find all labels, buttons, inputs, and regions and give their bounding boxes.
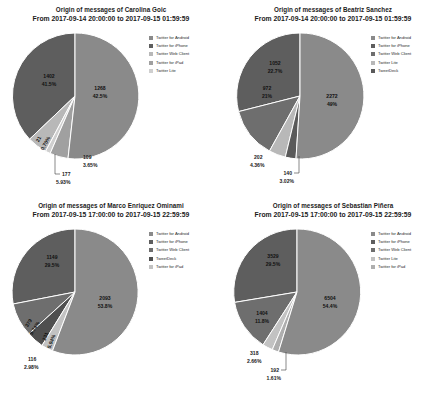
slice-label-value: 202 (254, 154, 263, 160)
legend-item[interactable]: Twitter for Android (149, 230, 219, 238)
chart-panel-marco-enriquez-ominami: Origin of messages of Marco Enriquez Omi… (0, 196, 222, 393)
chart-titles: Origin of messages of Carolina Goic From… (0, 0, 222, 23)
slice-label-value: 972 (263, 85, 272, 91)
slice-label-value: 1402 (43, 73, 54, 79)
legend-item[interactable]: Twitter Lite (371, 59, 441, 67)
pie-wedges (234, 229, 361, 355)
legend-item[interactable]: Twitter Web Client (149, 50, 219, 58)
slice-label-percent: 22.7% (268, 68, 283, 74)
legend-item[interactable]: Twitter for iPhone (371, 238, 441, 246)
legend-item[interactable]: Twitter Web Client (371, 50, 441, 58)
chart-panel-carolina-goic: Origin of messages of Carolina Goic From… (0, 0, 222, 196)
slice-label-percent: 11.8% (255, 318, 270, 324)
legend-swatch-icon (149, 265, 153, 269)
legend-item[interactable]: Twitter for iPad (149, 59, 219, 67)
pie-wedges (12, 229, 138, 355)
chart-titles: Origin of messages of Marco Enriquez Omi… (0, 196, 222, 219)
slice-label-value: 116 (28, 356, 36, 362)
legend-swatch-icon (149, 52, 153, 56)
legend: Twitter for Android Twitter for iPhone T… (149, 34, 219, 75)
legend-item[interactable]: Twitter for Android (371, 34, 441, 42)
legend-label: Twitter for Android (156, 36, 189, 40)
pie-chart-grid: Origin of messages of Carolina Goic From… (0, 0, 444, 393)
slice-label-percent: 5.93% (56, 179, 71, 185)
slice-label-percent: 41.5% (42, 81, 57, 87)
chart-titles: Origin of messages of Beatriz Sanchez Fr… (222, 0, 444, 23)
leader-line (281, 352, 286, 370)
legend-swatch-icon (371, 248, 375, 252)
slice-label-percent: 4.36% (250, 162, 265, 168)
slice-label-percent: 49% (327, 101, 338, 107)
plot-area: 6504 54.4% 3529 29.5% 1404 11.8% 318 2.6… (222, 224, 444, 392)
legend-item[interactable]: Twitter for Android (371, 230, 441, 238)
slice-label-value: 318 (250, 350, 259, 356)
slice-label-value: 3529 (267, 253, 278, 259)
plot-area: 2093 53.8% 1149 29.5% 379 9.74% 231 5.94… (0, 224, 222, 392)
legend-swatch-icon (149, 248, 153, 252)
legend-swatch-icon (371, 257, 375, 261)
legend-item[interactable]: Twitter for iPad (371, 263, 441, 271)
legend-item[interactable]: Twitter for iPhone (371, 42, 441, 50)
legend-item[interactable]: Twitter Web Client (371, 246, 441, 254)
legend-item[interactable]: Twitter for iPhone (149, 42, 219, 50)
slice-label-value: 177 (62, 171, 71, 177)
chart-title: Origin of messages of Sebastian Piñera (222, 202, 444, 210)
legend-label: Twitter Lite (378, 61, 398, 65)
legend-label: Twitter Web Client (378, 248, 411, 252)
legend-swatch-icon (371, 240, 375, 244)
legend-swatch-icon (371, 44, 375, 48)
legend-item[interactable]: TweetDeck (149, 255, 219, 263)
legend-label: Twitter for Android (156, 232, 189, 236)
slice-label-value: 109 (83, 154, 92, 160)
slice-label-percent: 2.98% (24, 364, 39, 370)
slice-label-value: 1268 (94, 85, 105, 91)
slice-label-percent: 54.4% (323, 303, 338, 309)
legend-item[interactable]: Twitter Web Client (149, 246, 219, 254)
chart-subtitle: From 2017-09-15 17:00:00 to 2017-09-15 2… (222, 211, 444, 219)
wedge-twitter-for-iphone[interactable] (12, 229, 75, 304)
slice-label-value: 2272 (326, 93, 337, 99)
legend-label: TweetDeck (156, 257, 176, 261)
legend-label: Twitter for Android (378, 36, 411, 40)
legend-item[interactable]: Twitter for iPhone (149, 238, 219, 246)
legend-swatch-icon (149, 36, 153, 40)
legend-label: Twitter for iPad (156, 61, 183, 65)
legend-swatch-icon (149, 257, 153, 261)
legend-label: Twitter Lite (156, 69, 176, 73)
chart-title: Origin of messages of Carolina Goic (0, 6, 222, 14)
legend-item[interactable]: TweetDeck (371, 67, 441, 75)
legend-swatch-icon (371, 36, 375, 40)
legend-item[interactable]: Twitter for iPad (149, 263, 219, 271)
legend-label: Twitter for iPhone (378, 44, 410, 48)
legend-label: Twitter Web Client (156, 248, 189, 252)
slice-label-value: 1052 (269, 60, 280, 66)
slice-label-value: 1404 (256, 310, 267, 316)
slice-label-value: 140 (284, 170, 293, 176)
legend-label: Twitter Web Client (156, 52, 189, 56)
plot-area: 2272 49% 1052 22.7% 972 21% 202 4.36% 14… (222, 28, 444, 196)
legend-swatch-icon (371, 69, 375, 73)
legend-label: Twitter for iPad (156, 265, 183, 269)
legend-item[interactable]: Twitter for Android (149, 34, 219, 42)
slice-label-percent: 29.5% (45, 262, 60, 268)
legend-label: Twitter for Android (378, 232, 411, 236)
legend-label: Twitter for iPad (378, 265, 405, 269)
legend-swatch-icon (371, 52, 375, 56)
chart-title: Origin of messages of Beatriz Sanchez (222, 6, 444, 14)
slice-label-percent: 3.65% (83, 162, 98, 168)
legend: Twitter for Android Twitter for iPhone T… (371, 230, 441, 271)
legend-item[interactable]: Twitter Lite (371, 255, 441, 263)
slice-label-percent: 29.5% (266, 261, 281, 267)
chart-panel-beatriz-sanchez: Origin of messages of Beatriz Sanchez Fr… (222, 0, 444, 196)
legend-swatch-icon (371, 232, 375, 236)
slice-label-value: 2093 (99, 295, 110, 301)
chart-subtitle: From 2017-09-15 17:00:00 to 2017-09-15 2… (0, 211, 222, 219)
slice-label-value: 192 (271, 367, 280, 373)
slice-label-value: 1149 (46, 254, 57, 260)
legend-label: Twitter for iPhone (378, 240, 410, 244)
pie-wedges (237, 33, 364, 159)
chart-subtitle: From 2017-09-14 20:00:00 to 2017-09-15 0… (0, 15, 222, 23)
chart-titles: Origin of messages of Sebastian Piñera F… (222, 196, 444, 219)
legend-item[interactable]: Twitter Lite (149, 67, 219, 75)
legend: Twitter for Android Twitter for iPhone T… (149, 230, 219, 271)
